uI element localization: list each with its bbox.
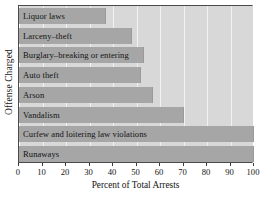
bar-category-label: Runaways [23,146,59,162]
tick-label-60: 60 [155,167,164,177]
bar-row: Curfew and loitering law violations [19,126,252,142]
tick-label-80: 80 [202,167,211,177]
bar-category-label: Auto theft [23,67,59,83]
tick-mark-40 [112,163,113,166]
tick-mark-70 [183,163,184,166]
bar-row: Liquor laws [19,8,252,24]
y-axis-title: Offense Charged [0,0,18,163]
x-axis-title: Percent of Total Arrests [18,180,253,190]
tick-mark-20 [65,163,66,166]
bar-category-label: Liquor laws [23,8,65,24]
bar-category-label: Larceny–theft [23,28,72,44]
tick-label-50: 50 [131,167,140,177]
gridline-100 [254,6,255,162]
bar-category-label: Curfew and loitering law violations [23,126,147,142]
x-axis-ticks: 0102030405060708090100 [0,163,278,177]
tick-mark-30 [89,163,90,166]
tick-label-70: 70 [178,167,187,177]
bar-row: Burglary–breaking or entering [19,47,252,63]
tick-label-0: 0 [16,167,20,177]
tick-label-20: 20 [61,167,70,177]
tick-mark-0 [18,163,19,166]
tick-label-30: 30 [84,167,93,177]
tick-label-100: 100 [247,167,260,177]
bar-row: Runaways [19,146,252,162]
tick-mark-80 [206,163,207,166]
tick-mark-90 [230,163,231,166]
bar-category-label: Burglary–breaking or entering [23,47,129,63]
bar-row: Larceny–theft [19,28,252,44]
bar-category-label: Vandalism [23,107,60,123]
bar-category-label: Arson [23,87,44,103]
tick-label-40: 40 [108,167,117,177]
tick-label-10: 10 [37,167,46,177]
bars-layer: Liquor lawsLarceny–theftBurglary–breakin… [19,6,252,162]
bar-row: Vandalism [19,107,252,123]
tick-mark-10 [42,163,43,166]
tick-mark-50 [136,163,137,166]
bar-chart: Offense Charged Liquor lawsLarceny–theft… [0,0,278,199]
y-axis-title-text: Offense Charged [4,49,14,115]
bar-row: Auto theft [19,67,252,83]
tick-mark-60 [159,163,160,166]
plot-area: Liquor lawsLarceny–theftBurglary–breakin… [18,5,253,163]
tick-label-90: 90 [225,167,234,177]
bar-row: Arson [19,87,252,103]
tick-mark-100 [253,163,254,166]
